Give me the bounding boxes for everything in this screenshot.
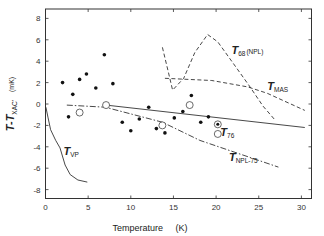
x-tick-label: 25 (254, 203, 263, 212)
x-tick-label: 0 (43, 203, 48, 212)
curve-labels: T76TNPL-75TMAST68(NPL)TVP (63, 44, 288, 164)
x-tick-label: 20 (212, 203, 221, 212)
data-point-filled (67, 115, 71, 119)
y-axis-title-sub: XAC' (11, 100, 18, 115)
data-point-filled (190, 94, 194, 98)
curve-label-extra: (NPL) (246, 48, 263, 56)
curve-label-sub: VP (70, 151, 79, 158)
data-point-filled (103, 53, 107, 57)
data-point-filled (61, 81, 65, 85)
data-point-open (159, 122, 166, 129)
data-point-circled-dot (216, 123, 219, 126)
y-tick-label: 6 (36, 36, 41, 45)
data-point-filled (78, 78, 82, 82)
chart: 051015202530 -8-6-4-202468 T76TNPL-75TMA… (0, 0, 324, 236)
y-axis-title-unit: (mK) (8, 77, 16, 92)
y-axis-title-main: T-T (4, 113, 16, 131)
data-point-open (76, 109, 83, 116)
y-tick-label: -2 (33, 121, 41, 130)
y-tick-label: -4 (33, 143, 41, 152)
data-points (61, 53, 222, 137)
y-tick-label: 0 (36, 100, 41, 109)
data-point-filled (111, 82, 115, 86)
data-point-filled (163, 131, 167, 135)
data-point-filled (120, 120, 124, 124)
x-tick-label: 30 (297, 203, 306, 212)
data-point-filled (199, 120, 203, 124)
curve-label-tvp: TVP (63, 145, 78, 158)
curve-label-t68-npl: T68(NPL) (231, 44, 263, 57)
svg-text:T-TXAC'(mK): T-TXAC'(mK) (4, 77, 18, 131)
y-tick-label: -8 (33, 186, 41, 195)
data-point-open (186, 102, 193, 109)
y-axis-ticks: -8-6-4-202468 (33, 14, 311, 194)
data-point-filled (85, 72, 89, 76)
curve-label-tmas: TMAS (267, 80, 288, 93)
plot-border (46, 9, 312, 199)
data-point-filled (71, 93, 75, 97)
x-tick-label: 15 (169, 203, 178, 212)
curves (46, 35, 305, 183)
y-tick-label: -6 (33, 164, 41, 173)
plot-frame (46, 9, 312, 199)
data-point-filled (173, 116, 177, 120)
x-tick-label: 5 (86, 203, 91, 212)
data-point-filled (181, 110, 185, 114)
data-point-filled (94, 86, 98, 90)
y-tick-label: 4 (36, 57, 41, 66)
data-point-open (103, 102, 110, 109)
curve-label-sub: 76 (227, 132, 235, 139)
curve-label-sub: MAS (274, 86, 289, 93)
x-tick-label: 10 (126, 203, 135, 212)
y-tick-label: 8 (36, 14, 41, 23)
curve-t76 (106, 105, 305, 127)
curve-label-tnpl-75: TNPL-75 (229, 151, 258, 164)
curve-label-t76: T76 (220, 126, 234, 139)
data-point-filled (147, 105, 151, 109)
x-axis-title: Temperature (K) (112, 223, 187, 233)
data-point-filled (155, 127, 159, 131)
curve-label-sub: NPL-75 (236, 157, 258, 164)
curve-label-sub: 68 (238, 50, 246, 57)
data-point-filled (138, 117, 142, 121)
y-tick-label: 2 (36, 79, 41, 88)
data-point-filled (129, 129, 133, 133)
y-axis-title: T-TXAC'(mK) (4, 77, 18, 131)
data-point-filled (207, 115, 211, 119)
